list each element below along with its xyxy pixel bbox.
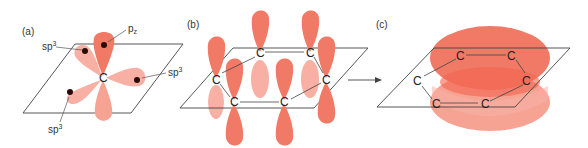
carbon-atom: C (306, 46, 315, 60)
pz-lobe (208, 85, 224, 119)
pz-lobe (226, 59, 243, 101)
panel-a: (a) C pz sp3 sp3 sp3 (22, 23, 183, 135)
carbon-atom: C (99, 71, 108, 85)
pz-lobe (276, 59, 293, 101)
pz-lobe (226, 104, 243, 146)
carbon-atom: C (230, 95, 239, 109)
electron-dot (82, 48, 88, 54)
pz-lobe (318, 82, 335, 124)
electron-dot (134, 77, 140, 83)
carbon-atom: C (413, 74, 422, 88)
sp3-label-upper-left: sp3 (42, 40, 57, 52)
leader-line (142, 73, 166, 78)
carbon-atom: C (212, 73, 221, 87)
panel-b-label: (b) (187, 19, 199, 30)
carbon-atom: C (456, 49, 465, 63)
sp3-label-lower: sp3 (48, 123, 63, 135)
panel-a-label: (a) (22, 26, 34, 37)
carbon-atom: C (481, 97, 490, 111)
panel-c: (c) C C C C C C (376, 19, 570, 131)
electron-dot (67, 89, 73, 95)
carbon-atom: C (256, 46, 265, 60)
panel-b: (b) C C C C C C (180, 11, 368, 146)
arrow-b-to-c (348, 77, 382, 83)
carbon-atom: C (507, 49, 516, 63)
carbon-atom: C (322, 73, 331, 87)
leader-line (60, 97, 69, 122)
pz-lobe (318, 37, 335, 79)
sp3-label-right: sp3 (168, 66, 183, 78)
carbon-atom: C (280, 95, 289, 109)
orbital-diagram: (a) C pz sp3 sp3 sp3 (b) (0, 0, 588, 148)
pz-lobe (276, 104, 293, 146)
carbon-atom: C (432, 97, 441, 111)
electron-dot (101, 42, 107, 48)
pz-label: pz (128, 23, 138, 35)
panel-c-label: (c) (376, 19, 388, 30)
pz-lobe-lower (95, 80, 112, 121)
pz-lobe (208, 37, 225, 79)
sp3-lobe-right (106, 68, 145, 87)
pz-lobe (251, 60, 269, 98)
carbon-atom: C (522, 74, 531, 88)
